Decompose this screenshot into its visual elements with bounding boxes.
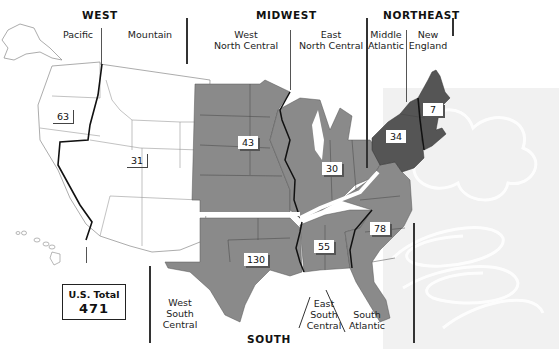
- label-line-1: East: [295, 29, 367, 40]
- census-division-map: WEST MIDWEST NORTHEAST SOUTH Pacific Mou…: [0, 0, 559, 349]
- division-label-mountain: Mountain: [120, 29, 180, 40]
- us-total-value: 471: [63, 301, 125, 316]
- label-line-2: South: [304, 309, 344, 320]
- label-line-3: Central: [160, 319, 200, 330]
- label-line-2: England: [408, 40, 448, 51]
- division-label-south-atlantic: South Atlantic: [345, 309, 389, 331]
- us-total-box: U.S. Total 471: [62, 284, 126, 320]
- value-badge-south-atlantic: 78: [370, 222, 390, 235]
- value-badge-pacific: 63: [53, 110, 74, 124]
- division-label-east-north-central: East North Central: [295, 29, 367, 51]
- value-badge-west-south-central: 130: [244, 253, 268, 266]
- label-line-2: North Central: [206, 40, 286, 51]
- label-line-2: North Central: [295, 40, 367, 51]
- us-total-label: U.S. Total: [63, 289, 125, 300]
- label-line-2: Atlantic: [345, 320, 389, 331]
- division-label-pacific: Pacific: [58, 29, 98, 40]
- label-line-2: South: [160, 308, 200, 319]
- division-label-middle-atlantic: Middle Atlantic: [367, 29, 405, 51]
- division-label-west-north-central: West North Central: [206, 29, 286, 51]
- label-text: Mountain: [128, 29, 172, 40]
- division-label-west-south-central: West South Central: [160, 297, 200, 330]
- label-line-2: Atlantic: [367, 40, 405, 51]
- value-badge-west-north-central: 43: [238, 136, 258, 149]
- value-badge-east-south-central: 55: [314, 240, 334, 253]
- label-line-1: West: [206, 29, 286, 40]
- value-badge-middle-atlantic: 34: [386, 130, 406, 143]
- label-text: Pacific: [63, 29, 93, 40]
- label-line-1: Middle: [367, 29, 405, 40]
- label-line-1: West: [160, 297, 200, 308]
- division-label-east-south-central: East South Central: [304, 298, 344, 331]
- division-label-new-england: New England: [408, 29, 448, 51]
- value-badge-new-england: 7: [423, 103, 443, 116]
- value-badge-mountain: 31: [127, 154, 148, 168]
- label-line-1: South: [345, 309, 389, 320]
- label-line-3: Central: [304, 320, 344, 331]
- value-badge-east-north-central: 30: [322, 162, 342, 175]
- label-line-1: New: [408, 29, 448, 40]
- label-line-1: East: [304, 298, 344, 309]
